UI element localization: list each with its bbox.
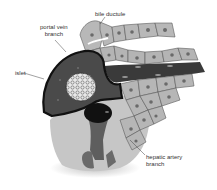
artery-highlight: [105, 111, 109, 113]
label-hepatic-artery-branch: hepatic artery branch: [146, 154, 182, 167]
liver-diagram: [0, 0, 217, 190]
hepatic-artery-branch: [84, 103, 112, 123]
label-portal-vein-branch: portal vein branch: [40, 24, 68, 37]
label-islet: islet: [15, 70, 26, 77]
hepatocyte-row-top: [80, 21, 175, 52]
label-bile-ductule: bile ductule: [95, 11, 125, 18]
islet: [66, 73, 96, 101]
